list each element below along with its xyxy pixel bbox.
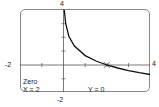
- mode-label: Zero: [23, 78, 37, 86]
- xmin-label: -2: [5, 61, 11, 69]
- x-value-label: X = 2: [23, 86, 40, 94]
- ymax-label: 4: [60, 0, 64, 8]
- xmax-label: 4: [152, 60, 156, 68]
- y-value-label: Y = 0: [88, 86, 104, 94]
- ymin-label: -2: [57, 96, 63, 104]
